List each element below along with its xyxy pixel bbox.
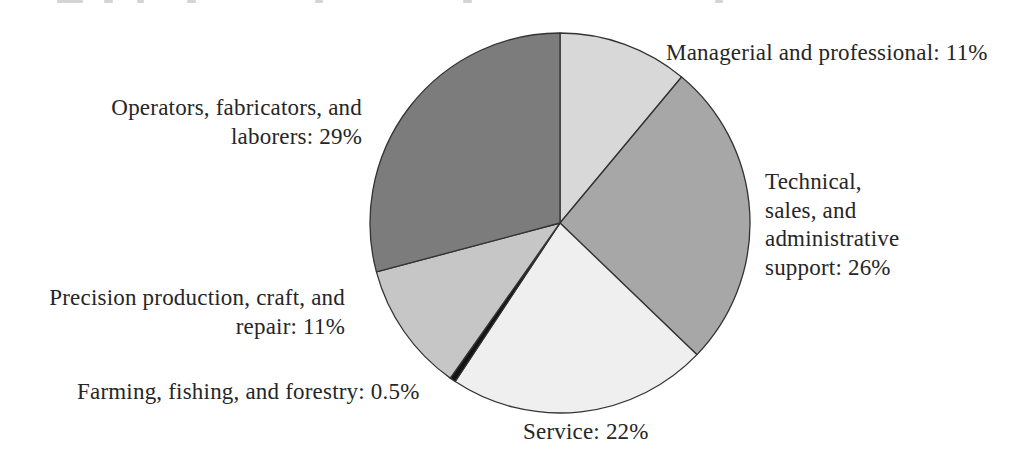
pie-label-technical: Technical, sales, and administrative sup… (765, 168, 899, 282)
pie-label-farming: Farming, fishing, and forestry: 0.5% (77, 377, 420, 406)
pie-chart-figure: Managerial and professional: 11% Technic… (0, 0, 1019, 473)
pie-label-service: Service: 22% (523, 417, 649, 446)
pie-label-operators: Operators, fabricators, and laborers: 29… (111, 93, 362, 151)
pie-label-precision: Precision production, craft, and repair:… (49, 283, 345, 341)
pie-label-managerial: Managerial and professional: 11% (666, 38, 988, 67)
